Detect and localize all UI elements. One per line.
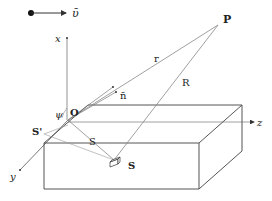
y-axis-tip: [19, 169, 21, 171]
normal-tip: [115, 91, 117, 93]
x-axis-tip: [66, 37, 68, 39]
source-label: S: [128, 160, 135, 171]
r-label: r: [154, 53, 159, 64]
s-prime-line: [44, 134, 114, 160]
normal-label: n̄: [120, 90, 127, 101]
x-axis-label: x: [55, 33, 61, 44]
observer-point-label: P: [223, 13, 231, 26]
tangent-tip: [112, 86, 114, 88]
source-projection-label: S': [32, 126, 42, 137]
diagram-canvas: ῡ x y z n̄ r R P S S' ψ O S: [0, 0, 272, 201]
box-right-face: [199, 105, 242, 189]
psi-label: ψ: [55, 109, 63, 120]
r-line: [68, 25, 218, 120]
y-axis-label: y: [9, 171, 16, 182]
velocity-label: ῡ: [72, 7, 79, 20]
z-axis-label: z: [256, 117, 263, 128]
R-label: R: [182, 77, 190, 88]
velocity-indicator: ῡ: [28, 7, 79, 20]
s-distance-label: S: [89, 136, 96, 147]
origin-label: O: [70, 107, 79, 118]
